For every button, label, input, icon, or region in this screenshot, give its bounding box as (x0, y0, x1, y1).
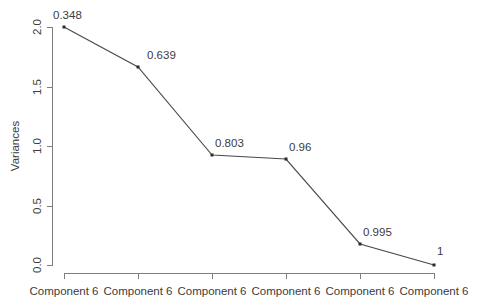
data-point-label: 1 (437, 245, 443, 257)
x-axis-tick-labels: Component 6 Component 6 Component 6 Comp… (29, 285, 468, 297)
data-point[interactable] (211, 154, 214, 157)
chart-screenshot: 0.0 0.5 1.0 1.5 2.0 Variances Component … (0, 0, 478, 306)
scree-plot: 0.0 0.5 1.0 1.5 2.0 Variances Component … (0, 0, 478, 306)
y-axis-tick-labels: 0.0 0.5 1.0 1.5 2.0 (31, 19, 43, 273)
data-point[interactable] (285, 158, 288, 161)
data-point[interactable] (63, 26, 66, 29)
y-tick-label: 0.5 (31, 198, 43, 214)
x-tick-label: Component 6 (399, 285, 468, 297)
data-point-label: 0.639 (147, 49, 176, 61)
y-axis-title: Variances (9, 121, 21, 172)
x-tick-label: Component 6 (325, 285, 394, 297)
x-axis-ticks (65, 274, 435, 280)
y-tick-label: 0.0 (31, 257, 43, 273)
data-point-label: 0.348 (53, 9, 82, 21)
data-point-label: 0.96 (289, 141, 311, 153)
y-axis-ticks (47, 28, 53, 266)
data-point-labels: 0.348 0.639 0.803 0.96 0.995 1 (53, 9, 443, 257)
y-tick-label: 1.5 (31, 79, 43, 95)
x-tick-label: Component 6 (29, 285, 98, 297)
y-tick-label: 1.0 (31, 138, 43, 154)
data-point[interactable] (137, 66, 140, 69)
x-tick-label: Component 6 (177, 285, 246, 297)
y-tick-label: 2.0 (31, 19, 43, 35)
x-tick-label: Component 6 (103, 285, 172, 297)
x-tick-label: Component 6 (251, 285, 320, 297)
data-point[interactable] (359, 243, 362, 246)
data-point-label: 0.803 (215, 137, 244, 149)
data-point[interactable] (433, 264, 436, 267)
data-point-label: 0.995 (363, 226, 392, 238)
